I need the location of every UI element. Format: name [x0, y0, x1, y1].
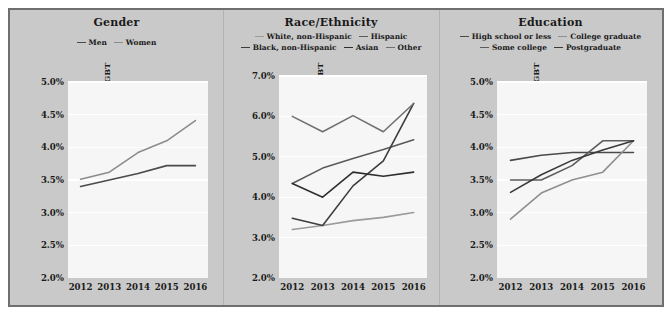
y-axis-tick-education-6: 5.0% [439, 77, 493, 87]
plot-wrap-gender: 2.0%2.5%3.0%3.5%4.0%4.5%5.0%201220132014… [10, 10, 223, 305]
panel-gender: Gender MenWomen Percentage of Adults Ide… [10, 10, 223, 305]
series-lines-education [497, 82, 647, 278]
x-axis-tick-education-3: 2015 [591, 282, 615, 292]
series-line-gender-1 [81, 121, 196, 180]
y-axis-tick-education-2: 3.0% [439, 208, 493, 218]
y-axis-tick-gender-0: 2.0% [10, 273, 64, 283]
x-axis-tick-education-2: 2014 [560, 282, 584, 292]
x-axis-tick-race-1: 2013 [311, 282, 335, 292]
series-lines-race [279, 76, 427, 278]
series-line-gender-0 [81, 166, 196, 187]
plot-area-education [497, 82, 647, 278]
y-axis-tick-race-1: 3.0% [223, 233, 275, 243]
panel-education: Education High school or lessCollege gra… [439, 10, 662, 305]
y-axis-tick-race-2: 4.0% [223, 192, 275, 202]
x-axis-tick-gender-4: 2016 [183, 282, 207, 292]
y-axis-tick-gender-5: 4.5% [10, 110, 64, 120]
y-axis-tick-education-4: 4.0% [439, 142, 493, 152]
x-axis-tick-gender-0: 2012 [69, 282, 93, 292]
y-axis-tick-race-3: 5.0% [223, 152, 275, 162]
series-line-race-2 [292, 103, 413, 225]
panel-race: Race/Ethnicity White, non-HispanicHispan… [223, 10, 439, 305]
plot-area-gender [68, 82, 208, 278]
series-line-education-3 [511, 141, 634, 193]
y-axis-tick-gender-1: 2.5% [10, 240, 64, 250]
y-axis-tick-race-5: 7.0% [223, 71, 275, 81]
plot-wrap-race: 2.0%3.0%4.0%5.0%6.0%7.0%2012201320142015… [223, 10, 439, 305]
x-axis-tick-education-4: 2016 [622, 282, 646, 292]
y-axis-tick-race-4: 6.0% [223, 111, 275, 121]
x-axis-tick-race-0: 2012 [280, 282, 304, 292]
series-line-race-4 [292, 103, 413, 131]
x-axis-tick-gender-1: 2013 [97, 282, 121, 292]
x-axis-tick-education-0: 2012 [499, 282, 523, 292]
series-lines-gender [68, 82, 208, 278]
y-axis-tick-gender-2: 3.0% [10, 208, 64, 218]
y-axis-tick-gender-6: 5.0% [10, 77, 64, 87]
x-axis-tick-race-2: 2014 [341, 282, 365, 292]
y-axis-tick-education-1: 2.5% [439, 240, 493, 250]
series-line-race-3 [292, 172, 413, 197]
figure-container: Gender MenWomen Percentage of Adults Ide… [8, 8, 664, 307]
x-axis-tick-race-4: 2016 [402, 282, 426, 292]
y-axis-tick-gender-3: 3.5% [10, 175, 64, 185]
y-axis-tick-gender-4: 4.0% [10, 142, 64, 152]
x-axis-tick-race-3: 2015 [371, 282, 395, 292]
y-axis-tick-race-0: 2.0% [223, 273, 275, 283]
plot-area-race [279, 76, 427, 278]
plot-wrap-education: 2.0%2.5%3.0%3.5%4.0%4.5%5.0%201220132014… [439, 10, 662, 305]
series-line-race-0 [292, 213, 413, 230]
series-line-race-1 [292, 140, 413, 184]
y-axis-tick-education-0: 2.0% [439, 273, 493, 283]
x-axis-tick-education-1: 2013 [529, 282, 553, 292]
x-axis-tick-gender-2: 2014 [126, 282, 150, 292]
y-axis-tick-education-3: 3.5% [439, 175, 493, 185]
x-axis-tick-gender-3: 2015 [155, 282, 179, 292]
y-axis-tick-education-5: 4.5% [439, 110, 493, 120]
